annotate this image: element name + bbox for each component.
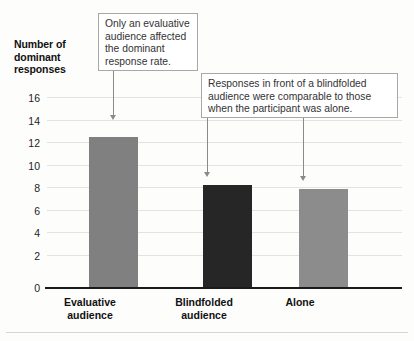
gridline-14 [47, 120, 402, 121]
y-tick-label-0: 0 [14, 283, 40, 293]
callout-2-connector-line-blindfolded [207, 118, 208, 174]
y-tick-label-12: 12 [14, 138, 40, 148]
y-tick-label-6: 6 [14, 206, 40, 216]
x-axis-label-alone: Alone [264, 296, 336, 309]
y-tick-label-8: 8 [14, 183, 40, 193]
x-label-alone-line-1: Alone [264, 296, 336, 309]
callout-2-arrowhead-alone-icon [300, 176, 306, 181]
callout-2-connector-line-alone [303, 118, 304, 178]
x-label-evaluative-line-1: Evaluative [54, 296, 126, 309]
callout-evaluative-audience: Only an evaluative audience affected the… [98, 13, 198, 71]
x-axis-label-blindfolded-audience: Blindfolded audience [168, 296, 240, 321]
y-tick-label-16: 16 [14, 93, 40, 103]
y-tick-label-4: 4 [14, 228, 40, 238]
x-label-evaluative-line-2: audience [54, 309, 126, 322]
figure-bottom-rule [6, 332, 408, 333]
x-label-blindfolded-line-1: Blindfolded [168, 296, 240, 309]
y-tick-label-14: 14 [14, 116, 40, 126]
bar-evaluative-audience [89, 137, 138, 288]
bar-blindfolded-audience [203, 185, 252, 289]
callout-blindfolded-and-alone: Responses in front of a blindfolded audi… [201, 73, 398, 118]
callout-1-connector-line [113, 71, 114, 117]
x-label-blindfolded-line-2: audience [168, 309, 240, 322]
callout-2-arrowhead-blindfolded-icon [204, 172, 210, 177]
bar-alone [299, 189, 348, 288]
bar-chart-figure: Number of dominant responses 16 14 12 10… [0, 0, 414, 341]
y-tick-label-10: 10 [14, 161, 40, 171]
callout-1-arrowhead-icon [110, 115, 116, 120]
x-axis-baseline [45, 287, 402, 290]
x-axis-label-evaluative-audience: Evaluative audience [54, 296, 126, 321]
y-tick-label-2: 2 [14, 251, 40, 261]
plot-area [47, 97, 402, 288]
